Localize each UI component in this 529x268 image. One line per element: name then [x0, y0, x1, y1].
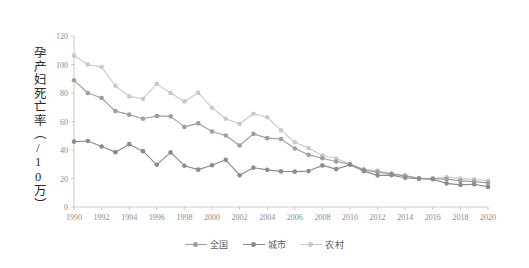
chart-figure: 孕产妇死亡率（/10万） 020406080100120199019921994…: [0, 0, 529, 268]
x-tick-label: 2010: [342, 213, 358, 222]
data-point: [127, 112, 132, 117]
data-point: [320, 156, 325, 161]
data-point: [113, 150, 118, 155]
data-point: [196, 90, 201, 95]
x-tick-label: 1992: [94, 213, 110, 222]
data-point: [265, 115, 270, 120]
data-point: [99, 65, 104, 70]
data-point: [210, 129, 215, 134]
legend-item-城市[interactable]: 城市: [243, 238, 287, 251]
legend-marker-icon: [243, 240, 265, 249]
x-tick-label: 2018: [452, 213, 468, 222]
legend-item-农村[interactable]: 农村: [300, 238, 344, 251]
data-point: [293, 146, 298, 151]
y-tick-label: 80: [60, 89, 68, 98]
data-point: [444, 177, 449, 182]
y-tick-label: 0: [64, 203, 68, 212]
data-point: [155, 114, 160, 119]
series-城市: [72, 139, 491, 189]
data-point: [168, 150, 173, 155]
y-tick-label: 120: [56, 32, 68, 41]
x-tick-label: 2000: [204, 213, 220, 222]
series-line: [74, 141, 488, 187]
data-point: [99, 144, 104, 149]
data-point: [182, 163, 187, 168]
data-series-layer: [72, 53, 491, 189]
x-tick-label: 2002: [232, 213, 248, 222]
data-point: [251, 112, 256, 117]
x-tick-label: 2006: [287, 213, 303, 222]
legend-label: 全国: [210, 238, 229, 251]
data-point: [141, 96, 146, 101]
data-point: [237, 122, 242, 127]
legend-marker-icon: [300, 240, 322, 249]
x-tick-label: 1994: [121, 213, 137, 222]
data-point: [141, 116, 146, 121]
data-point: [182, 99, 187, 104]
data-point: [444, 181, 449, 186]
data-point: [237, 173, 242, 178]
data-point: [472, 182, 477, 187]
data-point: [458, 183, 463, 188]
data-point: [224, 158, 229, 163]
data-point: [224, 133, 229, 138]
data-point: [293, 169, 298, 174]
x-tick-label: 2014: [397, 213, 413, 222]
x-tick-label: 2008: [314, 213, 330, 222]
data-point: [210, 163, 215, 168]
series-line: [74, 56, 488, 181]
data-point: [458, 179, 463, 184]
data-point: [389, 173, 394, 178]
data-point: [210, 106, 215, 111]
y-tick-label: 20: [60, 175, 68, 184]
x-tick-label: 2004: [259, 213, 275, 222]
x-tick-label: 1996: [149, 213, 165, 222]
legend-item-全国[interactable]: 全国: [185, 238, 229, 251]
data-point: [348, 162, 353, 167]
data-point: [182, 125, 187, 130]
data-point: [403, 175, 408, 180]
data-point: [86, 139, 91, 144]
data-point: [279, 128, 284, 133]
chart-legend: 全国城市农村: [0, 238, 529, 251]
data-point: [486, 185, 491, 190]
legend-label: 城市: [268, 238, 287, 251]
data-point: [362, 169, 367, 174]
data-point: [306, 169, 311, 174]
data-point: [224, 116, 229, 121]
data-point: [306, 146, 311, 151]
data-point: [86, 91, 91, 96]
data-point: [72, 78, 77, 83]
data-point: [237, 143, 242, 148]
data-point: [431, 177, 436, 182]
data-point: [251, 165, 256, 170]
y-tick-label: 100: [56, 61, 68, 70]
data-point: [306, 153, 311, 158]
data-point: [486, 181, 491, 186]
x-tick-label: 1990: [66, 213, 82, 222]
data-point: [99, 96, 104, 101]
data-point: [417, 176, 422, 181]
data-point: [265, 136, 270, 141]
axis-layer: [71, 36, 488, 210]
data-point: [141, 149, 146, 154]
data-point: [168, 91, 173, 96]
legend-marker-icon: [185, 240, 207, 249]
x-tick-label: 2020: [480, 213, 496, 222]
y-tick-label: 60: [60, 118, 68, 127]
data-point: [196, 167, 201, 172]
data-point: [196, 121, 201, 126]
data-point: [127, 94, 132, 99]
data-point: [279, 137, 284, 142]
data-point: [113, 83, 118, 88]
data-point: [251, 132, 256, 137]
data-point: [72, 139, 77, 144]
data-point: [127, 142, 132, 147]
data-point: [375, 173, 380, 178]
data-point: [155, 163, 160, 168]
data-point: [279, 169, 284, 174]
data-point: [334, 159, 339, 164]
data-point: [265, 168, 270, 173]
data-point: [334, 167, 339, 172]
data-point: [320, 163, 325, 168]
